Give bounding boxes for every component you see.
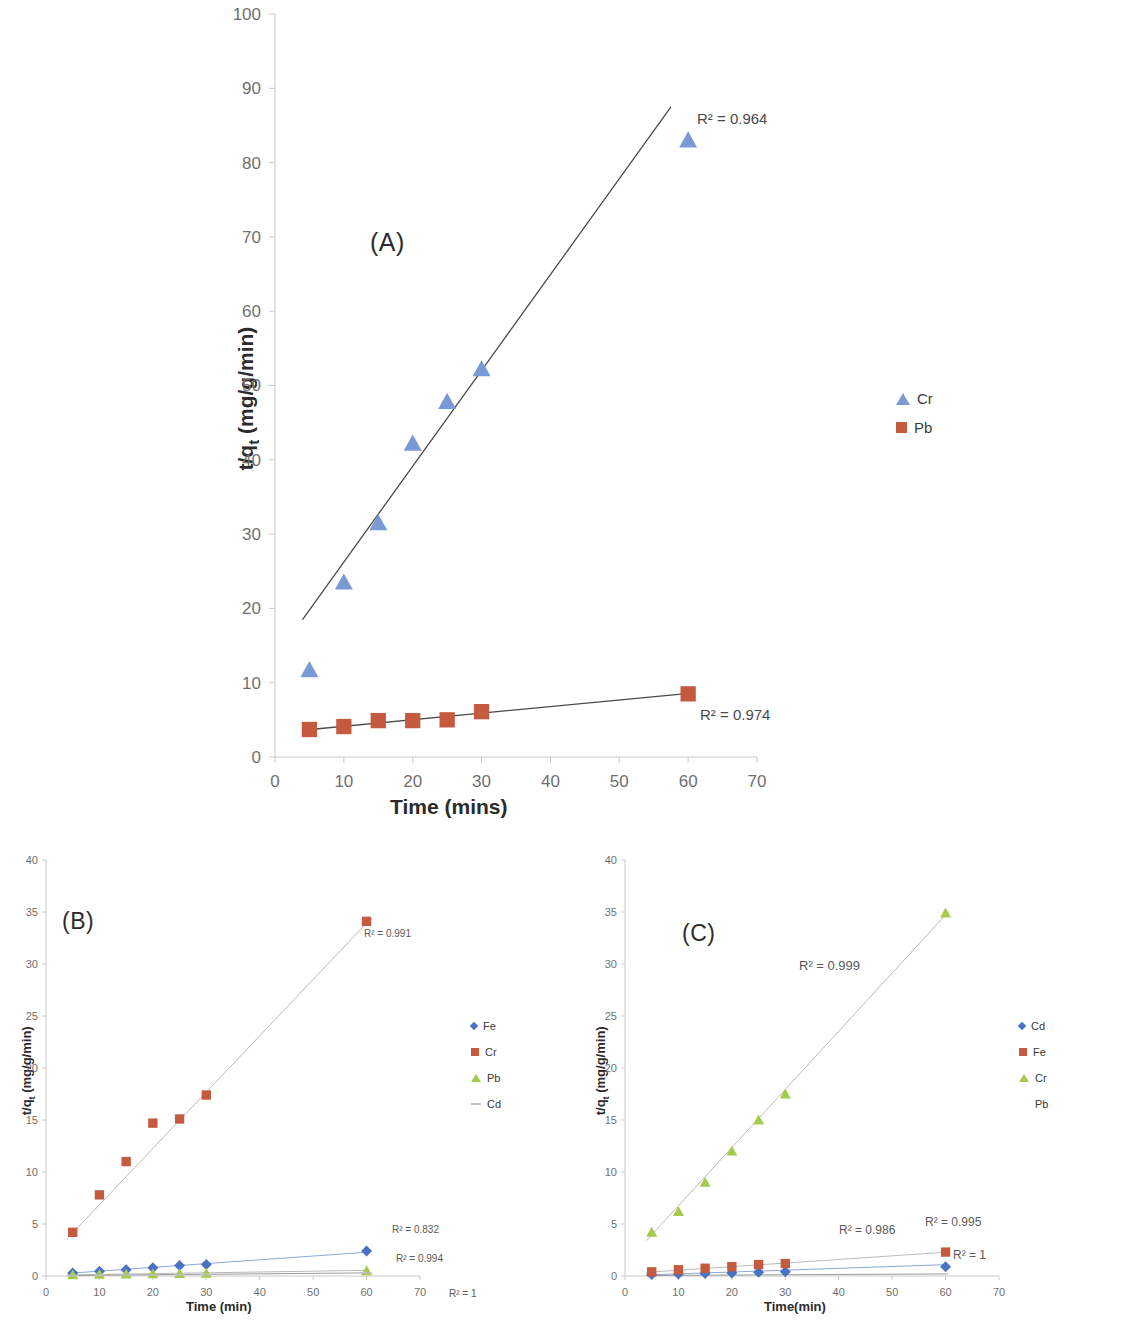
x-tick-label: 60: [360, 1286, 372, 1298]
data-point-pb: [439, 712, 454, 727]
x-tick-label: 10: [93, 1286, 105, 1298]
data-point-cr: [148, 1118, 157, 1127]
y-tick-label: 40: [26, 854, 38, 866]
y-tick-label: 35: [26, 906, 38, 918]
panel-c-chart: (C) t/qt (mg/g/min) Time(min) R² = 0.999…: [567, 840, 1134, 1320]
x-tick-label: 70: [414, 1286, 426, 1298]
data-point-pb: [336, 719, 351, 734]
panel-a-plot-area: 0102030405060708090100010203040506070: [0, 0, 1134, 840]
data-point-fe: [781, 1259, 790, 1268]
y-tick-label: 60: [242, 302, 261, 321]
data-point-cd: [147, 1274, 158, 1275]
data-point-fe: [674, 1265, 683, 1274]
data-point-cr: [68, 1228, 77, 1237]
y-tick-label: 20: [242, 599, 261, 618]
x-tick-label: 50: [886, 1286, 898, 1298]
x-tick-label: 30: [779, 1286, 791, 1298]
data-point-cr: [404, 434, 422, 450]
data-point-fe: [941, 1247, 950, 1256]
y-tick-label: 40: [242, 451, 261, 470]
data-point-cd: [201, 1274, 212, 1275]
y-tick-label: 30: [605, 958, 617, 970]
data-point-cr: [95, 1190, 104, 1199]
data-point-cr: [175, 1114, 184, 1123]
y-tick-label: 10: [242, 674, 261, 693]
panel-c-plot-area: 0510152025303540010203040506070: [567, 840, 1134, 1320]
panel-b-chart: (B) t/qt (mg/g/min) Time (min) R² = 0.99…: [0, 840, 567, 1320]
x-tick-label: 50: [610, 772, 629, 791]
x-tick-label: 30: [200, 1286, 212, 1298]
data-point-cd: [940, 1261, 951, 1272]
data-point-cr: [673, 1206, 684, 1216]
data-point-cr: [700, 1177, 711, 1187]
y-tick-label: 30: [26, 958, 38, 970]
trendline-fe: [67, 1252, 369, 1273]
data-point-cr: [679, 131, 697, 147]
data-point-cr: [940, 908, 951, 918]
data-point-cr: [300, 661, 318, 677]
y-tick-label: 20: [605, 1062, 617, 1074]
x-tick-label: 40: [833, 1286, 845, 1298]
trendline-pb: [303, 693, 692, 730]
y-tick-label: 15: [605, 1114, 617, 1126]
x-tick-label: 10: [334, 772, 353, 791]
y-tick-label: 0: [32, 1270, 38, 1282]
y-tick-label: 70: [242, 228, 261, 247]
y-tick-label: 90: [242, 79, 261, 98]
x-tick-label: 30: [472, 772, 491, 791]
panel-b-plot-area: 0510152025303540010203040506070: [0, 840, 567, 1320]
data-point-fe: [700, 1264, 709, 1273]
data-point-pb: [371, 713, 386, 728]
trendline-pb: [646, 1274, 948, 1276]
x-tick-label: 20: [147, 1286, 159, 1298]
data-point-fe: [727, 1262, 736, 1271]
data-point-cr: [121, 1157, 130, 1166]
y-tick-label: 10: [26, 1166, 38, 1178]
y-tick-label: 80: [242, 154, 261, 173]
data-point-cd: [361, 1272, 372, 1273]
x-tick-label: 70: [748, 772, 767, 791]
y-tick-label: 0: [252, 748, 261, 767]
data-point-cd: [121, 1274, 132, 1275]
x-tick-label: 40: [254, 1286, 266, 1298]
x-tick-label: 50: [307, 1286, 319, 1298]
data-point-fe: [754, 1260, 763, 1269]
y-tick-label: 40: [605, 854, 617, 866]
data-point-pb: [302, 722, 317, 737]
data-point-cr: [726, 1146, 737, 1156]
x-tick-label: 20: [403, 772, 422, 791]
y-tick-label: 20: [26, 1062, 38, 1074]
x-tick-label: 10: [672, 1286, 684, 1298]
data-point-cr: [753, 1115, 764, 1125]
data-point-cd: [94, 1275, 105, 1276]
panel-a-chart: (A) t/qt (mg/g/min) Time (mins) R² = 0.9…: [0, 0, 1134, 840]
data-point-cr: [646, 1227, 657, 1237]
data-point-cd: [174, 1274, 185, 1275]
y-tick-label: 25: [26, 1010, 38, 1022]
x-tick-label: 70: [993, 1286, 1005, 1298]
x-tick-label: 0: [270, 772, 279, 791]
x-tick-label: 40: [541, 772, 560, 791]
y-tick-label: 15: [26, 1114, 38, 1126]
y-tick-label: 5: [32, 1218, 38, 1230]
data-point-cd: [67, 1275, 78, 1276]
trendline-cr: [67, 920, 369, 1238]
trendline-cr: [303, 107, 671, 620]
data-point-pb: [405, 713, 420, 728]
data-point-cr: [438, 393, 456, 409]
y-tick-label: 0: [611, 1270, 617, 1282]
y-tick-label: 100: [233, 5, 261, 24]
x-tick-label: 60: [679, 772, 698, 791]
data-point-fe: [361, 1246, 372, 1257]
data-point-pb: [680, 686, 695, 701]
y-tick-label: 30: [242, 525, 261, 544]
trendline-cr: [646, 912, 948, 1241]
data-point-cr: [202, 1090, 211, 1099]
x-tick-label: 0: [43, 1286, 49, 1298]
y-tick-label: 10: [605, 1166, 617, 1178]
y-tick-label: 50: [242, 376, 261, 395]
x-tick-label: 60: [939, 1286, 951, 1298]
y-tick-label: 35: [605, 906, 617, 918]
data-point-fe: [647, 1267, 656, 1276]
data-point-cr: [335, 573, 353, 589]
